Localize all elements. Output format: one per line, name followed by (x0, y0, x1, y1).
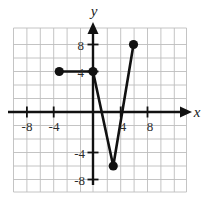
x-axis-label: x (193, 104, 201, 120)
y-tick-label-neg4: -4 (74, 146, 85, 161)
data-point-marker (129, 40, 138, 49)
x-tick-label-4: 4 (120, 119, 127, 134)
x-tick-label-neg8: -8 (22, 119, 33, 134)
graph-figure: 8 4 -4 -8 -8 -4 4 8 y x (0, 0, 210, 201)
data-point-marker (109, 161, 118, 170)
y-axis-label: y (89, 3, 98, 19)
y-tick-label-8: 8 (78, 38, 85, 53)
coordinate-plane-chart: 8 4 -4 -8 -8 -4 4 8 y x (0, 0, 210, 201)
y-tick-label-neg8: -8 (74, 173, 85, 188)
data-point-marker (88, 67, 97, 76)
x-tick-label-8: 8 (147, 119, 154, 134)
x-tick-label-neg4: -4 (49, 119, 60, 134)
y-tick-label-4: 4 (78, 65, 85, 80)
data-point-marker (55, 67, 64, 76)
